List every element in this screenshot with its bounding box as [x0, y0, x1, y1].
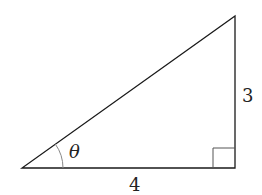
right-triangle-diagram: θ 3 4 — [0, 0, 262, 195]
side-label-opposite: 3 — [242, 85, 253, 106]
angle-arc — [55, 144, 63, 168]
right-angle-marker — [213, 148, 235, 168]
angle-label-theta: θ — [69, 141, 80, 162]
side-label-adjacent: 4 — [129, 174, 140, 195]
triangle — [22, 16, 235, 168]
